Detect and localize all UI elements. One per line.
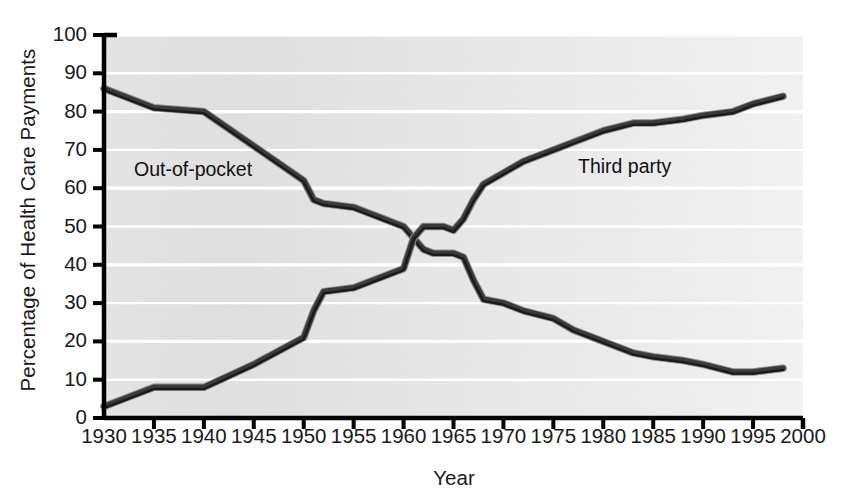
series-label-out-of-pocket: Out-of-pocket xyxy=(134,158,252,181)
plot-area xyxy=(0,0,859,502)
chart-figure: Percentage of Health Care Payments Year … xyxy=(0,0,859,502)
series-label-third-party: Third party xyxy=(578,155,671,178)
